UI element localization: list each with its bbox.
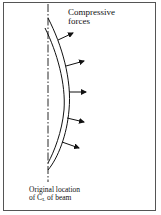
label-line: of CL of beam <box>29 194 80 202</box>
label-text: of beam <box>45 193 71 202</box>
arrow-icon <box>67 118 84 122</box>
beam-diagram <box>0 0 161 215</box>
arrow-icon <box>62 142 79 148</box>
compressive-forces-label: Compressive forces <box>68 8 115 27</box>
label-text: of C <box>29 193 42 202</box>
arrow-icon <box>58 33 73 40</box>
original-location-label: Original location of CL of beam <box>29 186 80 202</box>
label-line: forces <box>68 17 115 26</box>
compressive-force-arrows <box>58 33 86 148</box>
arrow-icon <box>66 61 84 66</box>
